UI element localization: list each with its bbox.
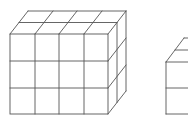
small-cube-stack [166, 38, 188, 114]
front-face [166, 62, 188, 114]
large-cube-stack [10, 11, 126, 114]
cube-diagram [0, 0, 188, 133]
top-face [166, 38, 188, 62]
top-face [10, 11, 126, 34]
front-face [10, 34, 108, 114]
side-face [108, 11, 126, 114]
